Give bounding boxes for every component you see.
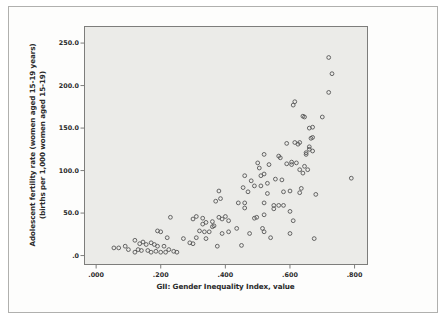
x-tick-label: .000 <box>88 271 104 279</box>
y-axis-title-line1: Adolescent fertility rate (women aged 15… <box>28 43 37 246</box>
scatterplot-figure: .050.0100.0150.0200.0250.0 .000.200.400.… <box>0 0 446 321</box>
x-tick-label: .600 <box>282 271 298 279</box>
x-tick-label: .200 <box>153 271 169 279</box>
y-tick-label: .0 <box>72 252 79 260</box>
x-tick-label: .400 <box>217 271 233 279</box>
y-tick-label: 50.0 <box>63 209 79 217</box>
y-tick-label: 150.0 <box>59 124 80 132</box>
x-axis-title: GII: Gender Inequality Index, value <box>156 282 294 291</box>
scatter-chart: .050.0100.0150.0200.0250.0 .000.200.400.… <box>0 0 446 321</box>
y-axis-title-line2: (births per 1,000 women aged 15-19) <box>38 71 47 219</box>
y-tick-label: 200.0 <box>59 82 80 90</box>
x-tick-label: .800 <box>347 271 363 279</box>
y-tick-label: 250.0 <box>59 39 80 47</box>
plot-area <box>85 27 368 265</box>
y-tick-label: 100.0 <box>59 167 80 175</box>
